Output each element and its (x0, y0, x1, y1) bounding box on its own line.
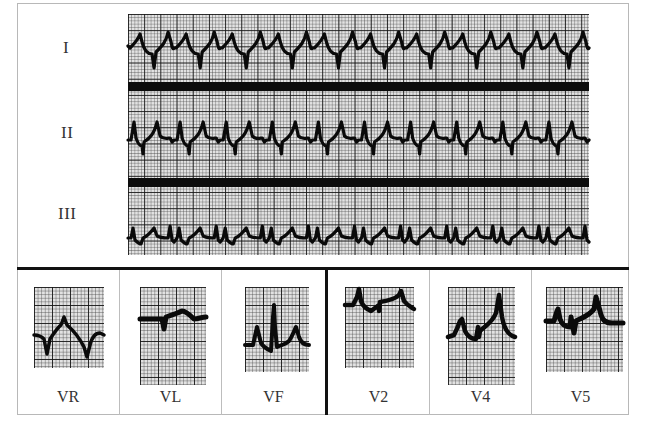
lead-vl-grid (140, 287, 206, 385)
lead-label-ii: II (61, 123, 73, 143)
lead-label-v2: V2 (328, 388, 429, 406)
lead-panel-v2: V2 (328, 270, 430, 415)
lead-vf-trace (245, 287, 309, 372)
lead-v2-trace (345, 287, 414, 368)
lead-v2-grid (345, 287, 414, 368)
lead-i-trace (128, 14, 589, 255)
lead-label-vf: VF (222, 388, 325, 406)
lead-vl-trace (140, 287, 206, 385)
lead-panel-v5: V5 (532, 270, 629, 415)
lead-panel-v4: V4 (430, 270, 532, 415)
lead-label-vr: VR (17, 388, 119, 406)
lead-vf-grid (245, 287, 309, 372)
lead-label-v4: V4 (430, 388, 531, 406)
lead-v5-grid (546, 287, 623, 372)
lead-vr-trace (34, 287, 104, 368)
lead-panel-vl: VL (120, 270, 222, 415)
lead-v4-grid (448, 287, 515, 385)
lead-label-v5: V5 (532, 388, 629, 406)
limb-rhythm-strip (128, 14, 589, 255)
lead-label-vl: VL (120, 388, 221, 406)
lead-label-iii: III (58, 204, 76, 224)
lead-vr-grid (34, 287, 104, 368)
lead-v4-trace (448, 287, 515, 385)
lead-panel-vr: VR (17, 270, 120, 415)
lead-v5-trace (546, 287, 623, 372)
lead-panel-vf: VF (222, 270, 325, 415)
lead-label-i: I (63, 38, 69, 58)
